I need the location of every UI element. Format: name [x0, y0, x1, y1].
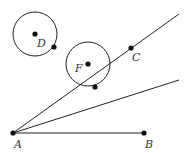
labels-group: A B C D F	[13, 37, 153, 151]
ray-ac	[13, 14, 179, 133]
point-b	[141, 130, 146, 135]
label-f: F	[74, 62, 83, 75]
point-d	[32, 31, 37, 36]
point-f	[85, 61, 90, 66]
label-a: A	[13, 138, 22, 151]
circles-group	[13, 12, 110, 86]
label-c: C	[132, 51, 141, 64]
point-on-circle-d	[51, 44, 56, 49]
geometry-diagram: A B C D F	[0, 0, 191, 153]
point-c	[128, 45, 133, 50]
point-on-circle-f	[92, 84, 97, 89]
label-b: B	[144, 138, 153, 151]
point-a	[10, 130, 15, 135]
label-d: D	[36, 37, 46, 50]
segments-group	[13, 14, 179, 133]
